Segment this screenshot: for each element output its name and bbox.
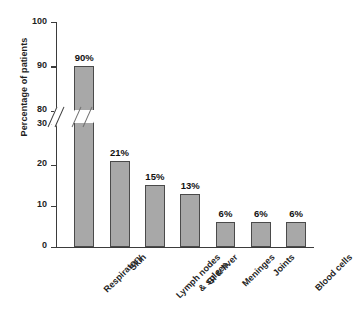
bar: [286, 222, 306, 246]
x-category-label: Blood cells: [313, 252, 354, 293]
bar-value-label: 6%: [219, 208, 233, 219]
bar: [74, 66, 94, 246]
bar-value-label: 15%: [145, 171, 164, 182]
bar-group: 13%: [180, 22, 200, 247]
bar: [110, 161, 130, 247]
bar-group: 6%: [251, 22, 271, 247]
bar-value-label: 6%: [289, 208, 303, 219]
x-category-label: Lymph nodes & spleen: [174, 252, 230, 308]
y-tick-label: 20: [37, 158, 47, 168]
bar-group: 6%: [286, 22, 306, 247]
bar-group: 6%: [216, 22, 236, 247]
bar-value-label: 21%: [110, 147, 129, 158]
bar: [216, 222, 236, 246]
bar: [251, 222, 271, 246]
bar: [145, 185, 165, 246]
plot-area: 01020308090100 90%21%15%13%6%6%6%: [56, 22, 318, 248]
y-tick-label: 0: [42, 240, 47, 250]
bar-value-label: 6%: [254, 208, 268, 219]
y-axis-title: Percentage of patients: [19, 17, 29, 157]
y-tick-label: 100: [32, 16, 47, 26]
bars-layer: 90%21%15%13%6%6%6%: [56, 22, 318, 248]
bar-value-label: 13%: [181, 180, 200, 191]
bar-group: 21%: [110, 22, 130, 247]
y-tick-label: 80: [37, 104, 47, 114]
x-category-label: Joints: [271, 252, 297, 278]
bar-group: 15%: [145, 22, 165, 247]
bar-group: 90%: [74, 22, 94, 247]
y-tick-label: 10: [37, 199, 47, 209]
bar-value-label: 90%: [75, 52, 94, 63]
bar: [180, 194, 200, 247]
y-tick-label: 90: [37, 60, 47, 70]
y-tick-label: 30: [37, 118, 47, 128]
